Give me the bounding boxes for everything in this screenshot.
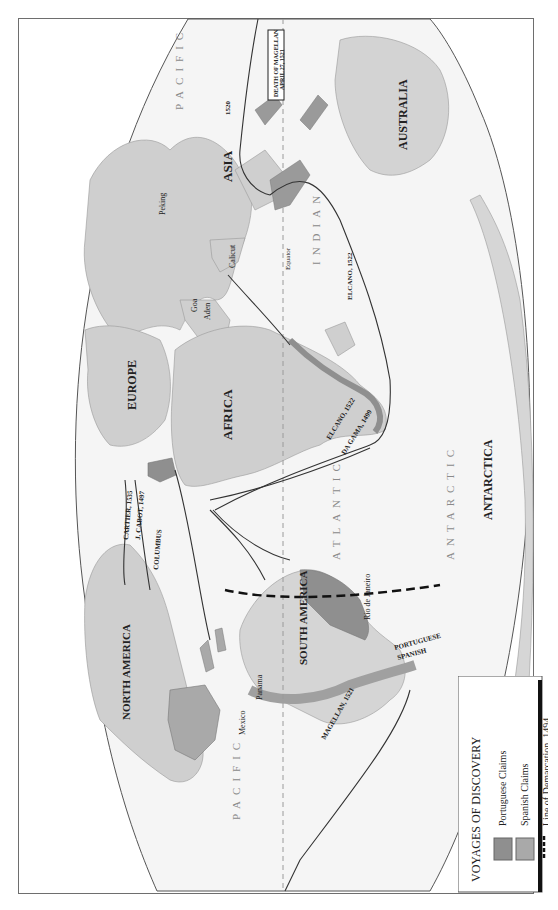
label-city-peking: Peking bbox=[158, 193, 167, 215]
label-south-america: SOUTH AMERICA bbox=[297, 571, 309, 665]
label-pacific-north: PACIFIC bbox=[173, 27, 185, 110]
legend-label-demarcation: Line of Demarcation, 1494 bbox=[541, 718, 548, 826]
label-city-calicut: Calicut bbox=[228, 244, 237, 268]
legend-swatch-portuguese bbox=[494, 838, 512, 860]
label-antarctic-ocean: ANTARCTIC bbox=[444, 444, 456, 560]
legend-swatch-spanish bbox=[516, 838, 534, 860]
label-city-mexico: Mexico bbox=[238, 711, 247, 735]
label-atlantic-ocean: ATLANTIC bbox=[330, 458, 342, 560]
legend-label-portuguese: Portuguese Claims bbox=[497, 751, 508, 826]
label-north-america: NORTH AMERICA bbox=[120, 624, 132, 720]
label-city-rio: Rio de Janeiro bbox=[363, 574, 372, 620]
label-pacific-south: PACIFIC bbox=[230, 737, 242, 820]
legend-box: VOYAGES OF DISCOVERY Portuguese Claims S… bbox=[458, 676, 548, 896]
label-route-magellan-north: 1520 bbox=[224, 101, 232, 116]
label-asia: ASIA bbox=[220, 150, 235, 182]
label-equator: Equator bbox=[284, 247, 292, 270]
label-city-goa: Goa bbox=[190, 298, 199, 312]
label-route-elcano-indian: ELCANO, 1522 bbox=[346, 252, 354, 300]
legend: VOYAGES OF DISCOVERY Portuguese Claims S… bbox=[458, 676, 548, 896]
label-city-panama: Panama bbox=[255, 674, 264, 700]
callout-death-of-magellan: DEATH OF MAGELLAN APRIL 27, 1521 bbox=[268, 29, 285, 100]
label-antarctica: ANTARCTICA bbox=[481, 439, 495, 520]
svg-text:APRIL 27, 1521: APRIL 27, 1521 bbox=[279, 49, 285, 90]
label-australia: AUSTRALIA bbox=[396, 79, 410, 150]
legend-title: VOYAGES OF DISCOVERY bbox=[469, 736, 483, 882]
label-city-aden: Aden bbox=[203, 303, 212, 320]
legend-label-spanish: Spanish Claims bbox=[519, 763, 530, 826]
label-africa: AFRICA bbox=[220, 389, 235, 440]
label-europe: EUROPE bbox=[125, 360, 139, 410]
label-indian-ocean: INDIAN bbox=[310, 190, 322, 265]
